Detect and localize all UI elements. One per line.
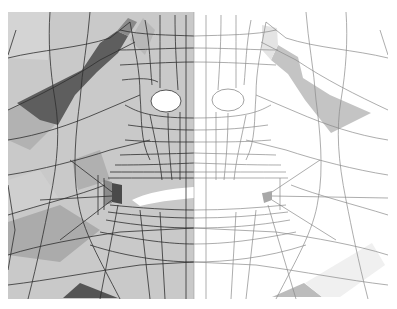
mesh-canvas [8, 12, 388, 299]
right-eye-hole [212, 89, 244, 111]
wireframe-half [194, 12, 388, 299]
face-mesh-figure [0, 0, 397, 309]
left-eye-hole [151, 90, 181, 112]
shaded-half [8, 12, 194, 299]
